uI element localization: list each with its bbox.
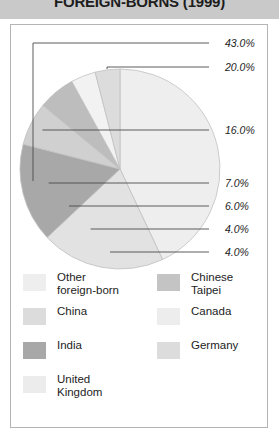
pie-slice-percent-label: 43.0% — [225, 37, 255, 49]
legend-column-right: Chinese TaipeiCanadaGermany — [157, 271, 261, 373]
legend-label: United Kingdom — [57, 373, 102, 399]
legend-label: Germany — [191, 339, 238, 352]
legend-label: Canada — [191, 305, 231, 318]
pie-slice-percent-label: 20.0% — [224, 61, 255, 73]
legend-column-left: Other foreign-bornChinaIndiaUnited Kingd… — [23, 271, 155, 407]
legend-label: China — [57, 305, 87, 318]
legend-item[interactable]: Other foreign-born — [23, 271, 155, 297]
chart-legend: Other foreign-bornChinaIndiaUnited Kingd… — [23, 271, 259, 417]
legend-swatch — [23, 342, 46, 359]
legend-label: Chinese Taipei — [191, 271, 233, 297]
pie-slice-percent-label: 16.0% — [225, 124, 255, 136]
legend-swatch — [157, 308, 180, 325]
legend-swatch — [23, 308, 46, 325]
legend-swatch — [157, 274, 180, 291]
legend-label: Other foreign-born — [57, 271, 119, 297]
legend-item[interactable]: India — [23, 339, 155, 365]
figure-foreign-borns-pie-chart: FOREIGN-BORNS (1999) 43.0%20.0%16.0%7.0%… — [0, 0, 279, 438]
pie-slice-percent-label: 6.0% — [225, 200, 249, 212]
pie-slice-percent-label: 7.0% — [225, 177, 249, 189]
legend-swatch — [157, 342, 180, 359]
chart-header-band: FOREIGN-BORNS (1999) — [0, 0, 279, 19]
page-title: FOREIGN-BORNS (1999) — [0, 0, 279, 10]
pie-slice-percent-label: 4.0% — [225, 246, 249, 258]
chart-panel: 43.0%20.0%16.0%7.0%6.0%4.0%4.0% Other fo… — [10, 24, 268, 428]
legend-item[interactable]: Germany — [157, 339, 261, 365]
legend-item[interactable]: Canada — [157, 305, 261, 331]
legend-item[interactable]: Chinese Taipei — [157, 271, 261, 297]
legend-label: India — [57, 339, 82, 352]
legend-swatch — [23, 376, 46, 393]
callout-percent-labels: 43.0%20.0%16.0%7.0%6.0%4.0%4.0% — [224, 37, 255, 258]
pie-slices — [20, 69, 220, 269]
legend-item[interactable]: United Kingdom — [23, 373, 155, 399]
legend-swatch — [23, 274, 46, 291]
legend-item[interactable]: China — [23, 305, 155, 331]
pie-slice-percent-label: 4.0% — [225, 223, 249, 235]
